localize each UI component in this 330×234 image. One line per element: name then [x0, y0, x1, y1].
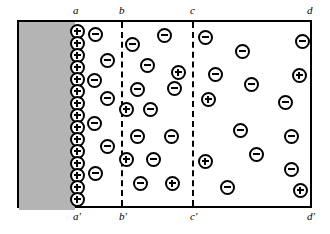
negative-charge-icon	[284, 162, 299, 177]
solid-block	[19, 22, 75, 210]
positive-charge-icon	[198, 154, 213, 169]
negative-charge-icon	[143, 102, 158, 117]
negative-charge-icon	[100, 139, 115, 154]
boundary-label-bottom-4: d′	[307, 211, 315, 222]
positive-charge-icon	[119, 152, 134, 167]
positive-charge-icon	[119, 102, 134, 117]
divider-c	[192, 22, 194, 206]
negative-charge-icon	[130, 82, 145, 97]
negative-charge-icon	[164, 129, 179, 144]
negative-charge-icon	[278, 95, 293, 110]
negative-charge-icon	[249, 147, 264, 162]
negative-charge-icon	[125, 37, 140, 52]
boundary-label-bottom-3: c′	[190, 211, 197, 222]
boundary-label-top-3: c	[190, 5, 195, 16]
negative-charge-icon	[146, 152, 161, 167]
cell-frame	[17, 20, 312, 208]
positive-charge-icon	[70, 192, 85, 207]
positive-charge-icon	[292, 68, 307, 83]
positive-charge-icon	[201, 92, 216, 107]
negative-charge-icon	[235, 44, 250, 59]
positive-charge-icon	[165, 176, 180, 191]
negative-charge-icon	[140, 58, 155, 73]
negative-charge-icon	[130, 129, 145, 144]
positive-charge-icon	[171, 65, 186, 80]
negative-charge-icon	[88, 166, 103, 181]
negative-charge-icon	[100, 91, 115, 106]
negative-charge-icon	[167, 81, 182, 96]
negative-charge-icon	[100, 53, 115, 68]
negative-charge-icon	[284, 129, 299, 144]
negative-charge-icon	[87, 116, 102, 131]
boundary-label-top-1: a	[73, 5, 79, 16]
negative-charge-icon	[157, 28, 172, 43]
boundary-label-bottom-1: a′	[73, 211, 81, 222]
negative-charge-icon	[133, 176, 148, 191]
negative-charge-icon	[220, 180, 235, 195]
negative-charge-icon	[208, 67, 223, 82]
negative-charge-icon	[198, 30, 213, 45]
boundary-label-top-4: d	[307, 5, 313, 16]
diagram-canvas: abcd a′b′c′d′	[0, 0, 330, 234]
boundary-label-top-2: b	[119, 5, 125, 16]
negative-charge-icon	[87, 73, 102, 88]
positive-charge-icon	[293, 183, 308, 198]
negative-charge-icon	[244, 77, 259, 92]
negative-charge-icon	[233, 123, 248, 138]
boundary-label-bottom-2: b′	[119, 211, 127, 222]
negative-charge-icon	[88, 27, 103, 42]
negative-charge-icon	[295, 34, 310, 49]
